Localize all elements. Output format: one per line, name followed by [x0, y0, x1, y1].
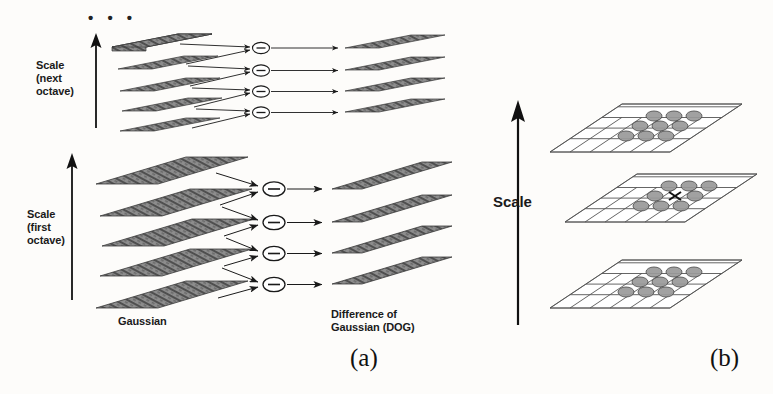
label-difference-of-gaussian: Difference of Gaussian (DOG): [331, 308, 415, 334]
minus-operator: [263, 182, 285, 196]
minus-operator: [253, 107, 270, 118]
minus-operator: [263, 246, 285, 260]
label-scale-next-octave: Scale (next octave): [36, 59, 74, 98]
caption-a: (a): [350, 344, 378, 372]
sift-scale-space-figure: [0, 0, 773, 394]
ellipsis-marker: • • •: [88, 9, 137, 26]
minus-operator: [263, 215, 285, 229]
minus-operator: [263, 277, 285, 291]
minus-operator: [253, 65, 270, 76]
label-scale-panel-b: Scale: [493, 195, 532, 208]
caption-b: (b): [710, 344, 739, 372]
label-scale-first-octave: Scale (first octave): [27, 208, 65, 247]
label-gaussian: Gaussian: [118, 315, 167, 328]
minus-operator: [253, 86, 270, 97]
minus-operator: [253, 42, 270, 53]
